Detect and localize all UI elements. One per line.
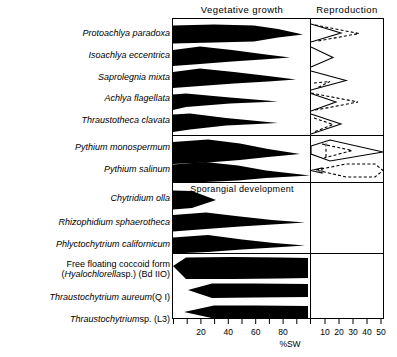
panel-header-reproduction: Reproduction <box>316 4 377 15</box>
species-label-5: Pythium monospermum <box>75 142 171 152</box>
species-label-10-strain: sp.) (Bd IIO) <box>121 269 170 279</box>
species-label-6: Pythium salinum <box>104 164 171 174</box>
x-axis-vegetative <box>174 319 311 325</box>
species-label-4: Thraustotheca clavata <box>81 115 170 125</box>
vegetative-growth-bars <box>173 25 310 319</box>
species-label-12-strain: sp. (L3) <box>139 314 170 324</box>
bar-thraustotheca-clavata <box>173 114 278 133</box>
x-tick-label-rep-40: 40 <box>362 327 372 337</box>
x-tick-label-veg-20: 20 <box>196 327 206 337</box>
panel-header-vegetative: Vegetative growth <box>201 4 283 15</box>
species-label-7: Chytridium olla <box>110 193 170 203</box>
species-label-2: Saprolegnia mixta <box>98 72 170 82</box>
bar-achlya-flagellata <box>173 94 278 111</box>
species-label-10-line2: (Hyalochlorellasp.) (Bd IIO) <box>61 269 170 279</box>
x-tick-label-rep-50: 50 <box>376 327 386 337</box>
species-label-11: Thraustochytrium aureum(Q I) <box>49 292 170 302</box>
x-tick-label-rep-20: 20 <box>334 327 344 337</box>
species-label-10-line1: Free floating coccoid form <box>66 259 170 269</box>
panel-header-sporangial: Sporangial development <box>190 184 294 194</box>
peak-dash-pythium-salinum <box>316 164 383 177</box>
bar-protoachlya-paradoxa <box>173 25 303 44</box>
x-axis-reproduction <box>325 319 381 325</box>
bar-rhizophidium-sphaerotheca <box>173 213 305 232</box>
peak-solid-pythium-monospermum <box>311 140 383 161</box>
species-label-11-strain: (Q I) <box>152 292 170 302</box>
species-label-0: Protoachlya paradoxa <box>82 28 170 38</box>
x-tick-label-rep-30: 30 <box>348 327 358 337</box>
species-label-12-name: Thraustochytrium <box>70 314 140 324</box>
bar-pythium-salinum <box>173 162 310 183</box>
bar-isoachlya-eccentrica <box>173 47 290 67</box>
x-tick-label-veg-80: 80 <box>278 327 288 337</box>
species-label-11-name: Thraustochytrium aureum <box>49 292 152 302</box>
reproduction-peaks <box>311 24 383 177</box>
x-tick-label-veg-40: 40 <box>224 327 234 337</box>
bar-phlyctochytrium-californicum <box>173 235 305 254</box>
x-tick-label-rep-10: 10 <box>320 327 330 337</box>
species-label-10-genus: Hyalochlorella <box>64 269 121 279</box>
peak-solid-saprolegnia-mixta <box>311 71 346 90</box>
x-axis-label: %SW <box>279 339 300 349</box>
species-label-9: Phlyctochytrium californicum <box>56 239 171 249</box>
bar-pythium-monospermum <box>173 140 300 165</box>
species-label-12: Thraustochytriumsp. (L3) <box>70 314 170 324</box>
bar-free-floating-coccoid-form <box>173 257 308 279</box>
x-tick-label-veg-60: 60 <box>251 327 261 337</box>
peak-solid-isoachlya-eccentrica <box>311 47 333 67</box>
bar-saprolegnia-mixta <box>173 69 296 89</box>
peak-solid-achlya-flagellata <box>311 94 336 112</box>
species-label-1: Isoachlya eccentrica <box>88 50 170 60</box>
species-label-8: Rhizophidium sphaerotheca <box>58 217 170 227</box>
salinity-tolerance-figure: Vegetative growth Reproduction Sporangia… <box>0 0 397 357</box>
bar-thraustochytrium-sp-l3 <box>184 306 308 319</box>
bar-thraustochytrium-aureum <box>188 284 308 299</box>
species-label-3: Achlya flagellata <box>103 93 170 103</box>
